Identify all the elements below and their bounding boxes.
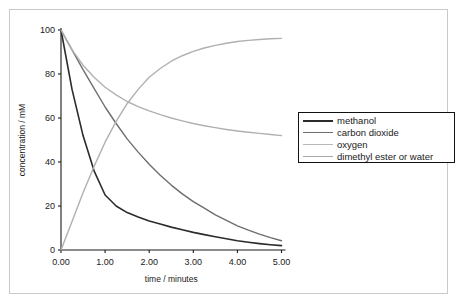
x-tick-label: 3.00 (185, 257, 203, 267)
axes (61, 28, 286, 250)
series-line-oxygen (61, 30, 282, 136)
legend-swatch-methanol (303, 120, 333, 122)
legend-swatch-carbon-dioxide (303, 132, 333, 133)
x-tick-label: 1.00 (96, 257, 114, 267)
y-tick-label: 20 (45, 201, 55, 211)
chart-page: 0204060801000.001.002.003.004.005.00 tim… (0, 0, 461, 308)
legend-item-carbon-dioxide: carbon dioxide (299, 127, 454, 139)
legend-swatch-oxygen (303, 144, 333, 145)
x-tick-label: 5.00 (273, 257, 291, 267)
y-tick-label: 60 (45, 113, 55, 123)
legend-label-dimethyl-ester-or-water: dimethyl ester or water (337, 151, 433, 162)
x-tick-label: 4.00 (229, 257, 247, 267)
x-axis-title: time / minutes (145, 274, 198, 284)
y-tick-label: 0 (50, 245, 55, 255)
y-axis-title: concentration / mM (17, 104, 27, 176)
y-tick-label: 80 (45, 69, 55, 79)
chart-legend: methanol carbon dioxide oxygen dimethyl … (298, 112, 455, 163)
x-tick-label: 0.00 (52, 257, 70, 267)
tick-marks (58, 30, 282, 253)
legend-item-dimethyl-ester-or-water: dimethyl ester or water (299, 151, 454, 163)
y-tick-label: 40 (45, 157, 55, 167)
series-line-methanol (61, 30, 282, 246)
series-line-dimethyl-ester-or-water (61, 38, 282, 250)
x-tick-label: 2.00 (140, 257, 158, 267)
legend-label-methanol: methanol (337, 115, 376, 126)
legend-label-carbon-dioxide: carbon dioxide (337, 127, 399, 138)
legend-item-methanol: methanol (299, 115, 454, 127)
legend-item-oxygen: oxygen (299, 139, 454, 151)
legend-label-oxygen: oxygen (337, 139, 368, 150)
data-series (61, 30, 282, 250)
tick-labels: 0204060801000.001.002.003.004.005.00 (40, 25, 290, 267)
legend-swatch-dimethyl-ester-or-water (303, 156, 333, 157)
y-tick-label: 100 (40, 25, 55, 35)
